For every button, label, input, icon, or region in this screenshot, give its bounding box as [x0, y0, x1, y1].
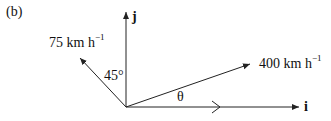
- wind-angle-label: 45°: [104, 69, 124, 83]
- wind-speed-label: 75 km h−1: [49, 36, 104, 50]
- plane-speed-unit-exponent: −1: [312, 53, 322, 63]
- plane-speed-label: 400 km h−1: [259, 57, 321, 71]
- j-axis-label: j: [132, 10, 137, 24]
- plane-vector-arrow: [126, 64, 250, 107]
- plane-speed-value: 400: [259, 56, 280, 71]
- wind-speed-value: 75: [49, 35, 63, 50]
- i-axis-label: i: [304, 100, 308, 114]
- plane-speed-unit: km h: [284, 56, 312, 71]
- wind-speed-unit-exponent: −1: [95, 32, 105, 42]
- wind-speed-unit: km h: [67, 35, 95, 50]
- panel-label: (b): [6, 5, 22, 19]
- theta-angle-label: θ: [177, 90, 184, 104]
